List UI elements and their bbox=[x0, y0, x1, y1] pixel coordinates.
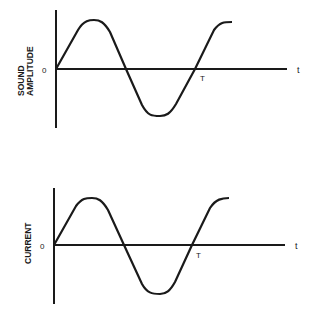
origin-label: 0 bbox=[40, 242, 45, 251]
time-axis-label: t bbox=[295, 241, 298, 251]
y-axis-label-line2: AMPLITUDE bbox=[25, 46, 35, 96]
time-axis-label: t bbox=[297, 65, 300, 75]
origin-label: 0 bbox=[42, 66, 47, 75]
current-chart: 0 t T CURRENT bbox=[23, 188, 298, 304]
period-label: T bbox=[200, 74, 205, 83]
y-axis-label: CURRENT bbox=[23, 222, 33, 264]
sound-amplitude-chart: 0 t T SOUND AMPLITUDE bbox=[16, 10, 300, 128]
period-label: T bbox=[196, 251, 201, 260]
waveform-diagram: 0 t T SOUND AMPLITUDE 0 t T CURRENT bbox=[0, 0, 313, 311]
